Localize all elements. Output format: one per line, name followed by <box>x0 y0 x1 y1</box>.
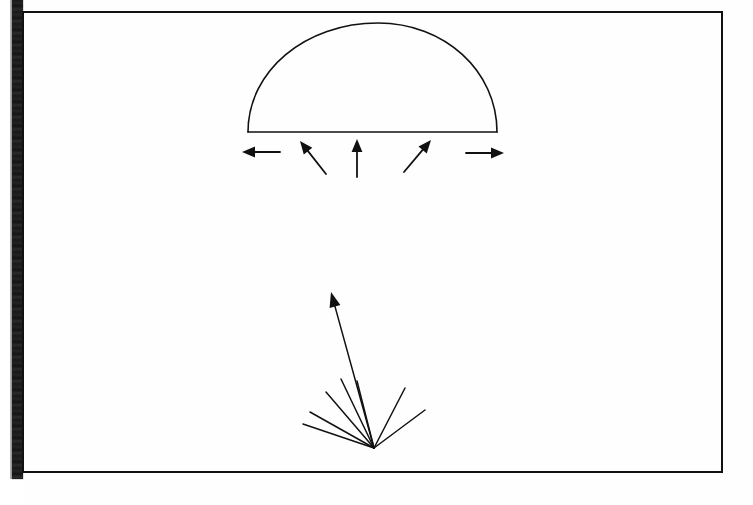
ray-8-line <box>374 410 425 448</box>
arrow-right-icon <box>466 148 504 159</box>
figure-lower-group <box>303 292 425 448</box>
arrow-left-icon-head <box>242 147 255 158</box>
arrow-up-left-icon <box>300 141 326 174</box>
figure-canvas <box>0 0 753 505</box>
arrow-up-icon <box>352 139 363 177</box>
arrow-right-icon-head <box>491 148 504 159</box>
figure-upper-group <box>242 23 504 177</box>
ray-5-arrow-icon-head <box>330 292 341 308</box>
arrow-up-right-icon-shaft <box>404 148 424 172</box>
outward-arrow-group <box>242 139 504 177</box>
scanned-page <box>0 0 753 505</box>
arrow-up-icon-head <box>352 139 363 152</box>
page-border-rectangle <box>23 12 722 472</box>
arrow-left-icon <box>242 147 280 158</box>
arrow-up-left-icon-shaft <box>307 149 326 174</box>
arrow-up-right-icon <box>404 140 431 172</box>
arrow-up-left-icon-head <box>300 141 312 155</box>
dome-arc <box>248 23 497 132</box>
ray-7-line <box>374 388 405 448</box>
